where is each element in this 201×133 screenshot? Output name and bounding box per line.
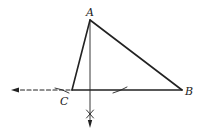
extension-arrowhead-icon	[11, 88, 19, 93]
label-b: B	[185, 86, 193, 97]
label-a: A	[86, 7, 94, 18]
side-ac	[72, 20, 90, 90]
triangle-construction-diagram	[0, 0, 201, 133]
perpendicular-arrowhead-icon	[88, 120, 92, 128]
side-ab	[90, 20, 182, 90]
label-c: C	[60, 96, 68, 107]
